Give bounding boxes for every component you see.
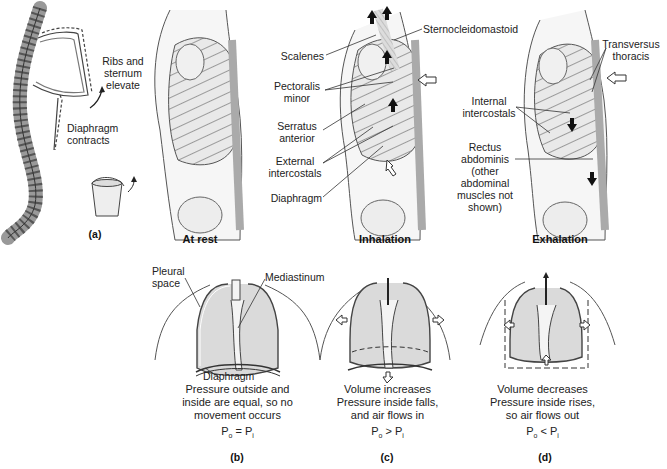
- ribs-label-line: elevate: [93, 79, 153, 91]
- caption-line: Volume increases: [300, 383, 475, 396]
- caption-line: Volume decreases: [455, 383, 630, 396]
- eq-right-sub: i: [252, 432, 254, 439]
- label-line: abdominis: [455, 153, 515, 165]
- label-line: anterior: [270, 132, 324, 144]
- caption-c: Volume increases Pressure inside falls, …: [300, 383, 475, 422]
- panel-letter-b: (b): [222, 451, 252, 463]
- label-internal-intercostals: Internal intercostals: [458, 95, 520, 119]
- ribs-elevate-label: Ribs and sternum elevate: [93, 55, 153, 91]
- label-line: Rectus: [455, 141, 515, 153]
- eq-left-sub: o: [378, 432, 382, 439]
- diaphragm-contracts-label: Diaphragm contracts: [67, 122, 118, 146]
- label-line: thoracis: [598, 50, 664, 62]
- title-at-rest: At rest: [165, 233, 235, 245]
- bucket-icon: [92, 176, 137, 216]
- spine-illustration: [8, 8, 40, 238]
- equation-c: Po > Pi: [340, 425, 435, 439]
- eq-left-sub: o: [228, 432, 232, 439]
- eq-right-sub: i: [402, 432, 404, 439]
- ribs-label-line: sternum: [93, 67, 153, 79]
- caption-line: Pressure outside and: [150, 383, 325, 396]
- caption-line: so air flows out: [455, 409, 630, 422]
- eq-left-sub: o: [533, 432, 537, 439]
- panel-letter-a: (a): [80, 228, 110, 240]
- label-mediastinum: Mediastinum: [265, 271, 325, 283]
- equation-b: Po = Pi: [190, 425, 285, 439]
- lungs-at-rest: [155, 278, 320, 378]
- label-diaphragm-inhalation: Diaphragm: [262, 192, 322, 204]
- label-sternocleidomastoid: Sternocleidomastoid: [423, 23, 518, 35]
- label-line: External: [264, 155, 326, 167]
- label-line: intercostals: [458, 107, 520, 119]
- eq-op: >: [385, 425, 391, 437]
- caption-line: Pressure inside rises,: [455, 396, 630, 409]
- label-transversus-thoracis: Transversus thoracis: [598, 38, 664, 62]
- label-external-intercostals: External intercostals: [264, 155, 326, 179]
- torso-at-rest: [155, 10, 242, 240]
- ribs-label-line: Ribs and: [93, 55, 153, 67]
- lungs-exhalation: [480, 272, 615, 368]
- equation-d: Po < Pi: [495, 425, 590, 439]
- title-exhalation: Exhalation: [520, 233, 600, 245]
- caption-line: and air flows in: [300, 409, 475, 422]
- eq-op: <: [540, 425, 546, 437]
- label-diaphragm-b: Diaphragm: [203, 370, 254, 382]
- label-rectus-abdominis: Rectus abdominis (other abdominal muscle…: [455, 141, 515, 213]
- eq-op: =: [235, 425, 241, 437]
- label-pectoralis-minor: Pectoralis minor: [270, 80, 324, 104]
- title-inhalation: Inhalation: [345, 233, 425, 245]
- label-line: (other: [455, 165, 515, 177]
- label-line: minor: [270, 92, 324, 104]
- label-scalenes: Scalenes: [270, 50, 324, 62]
- torso-inhalation: [340, 6, 436, 240]
- label-serratus-anterior: Serratus anterior: [270, 120, 324, 144]
- label-line: muscles not: [455, 189, 515, 201]
- label-line: abdominal: [455, 177, 515, 189]
- label-line: space: [152, 277, 185, 289]
- caption-b: Pressure outside and inside are equal, s…: [150, 383, 325, 422]
- label-line: Transversus: [598, 38, 664, 50]
- caption-line: movement occurs: [150, 409, 325, 422]
- label-pleural-space: Pleural space: [152, 265, 185, 289]
- label-line: Pectoralis: [270, 80, 324, 92]
- caption-d: Volume decreases Pressure inside rises, …: [455, 383, 630, 422]
- eq-right-sub: i: [557, 432, 559, 439]
- label-line: Serratus: [270, 120, 324, 132]
- label-line: shown): [455, 201, 515, 213]
- diaphragm-label-line: Diaphragm: [67, 122, 118, 134]
- lungs-inhalation: [320, 278, 450, 383]
- label-line: Internal: [458, 95, 520, 107]
- panel-letter-c: (c): [372, 451, 402, 463]
- label-line: intercostals: [264, 167, 326, 179]
- caption-line: Pressure inside falls,: [300, 396, 475, 409]
- caption-line: inside are equal, so no: [150, 396, 325, 409]
- label-line: Pleural: [152, 265, 185, 277]
- diaphragm-label-line: contracts: [67, 134, 118, 146]
- panel-letter-d: (d): [530, 451, 560, 463]
